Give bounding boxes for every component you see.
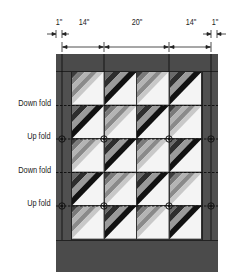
- fold-label-down-1: Down fold: [18, 98, 51, 108]
- fold-label-down-2: Down fold: [18, 165, 51, 175]
- fold-label-up-2: Up fold: [28, 198, 51, 208]
- fold-label-up-1: Up fold: [28, 131, 51, 141]
